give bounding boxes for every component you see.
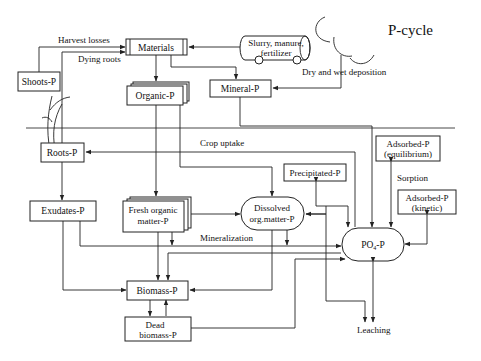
deposition-sketch-icon xyxy=(316,17,374,64)
node-dead-biomass: Dead biomass-P xyxy=(125,317,191,341)
flow-label-dry-wet-deposition: Dry and wet deposition xyxy=(302,67,387,77)
node-mineral-label: Mineral-P xyxy=(221,84,260,94)
node-adsorbed-eq-label-2: (equilibrium) xyxy=(384,149,432,159)
flow-label-mineralization: Mineralization xyxy=(200,233,253,243)
node-mineral: Mineral-P xyxy=(210,80,271,97)
node-adsorbed-equilibrium: Adsorbed-P (equilibrium) xyxy=(376,136,440,161)
node-adsorbed-kin-label-1: Adsorbed-P xyxy=(406,193,449,203)
node-roots-label: Roots-P xyxy=(47,148,78,158)
node-organic-label: Organic-P xyxy=(136,91,175,101)
diagram-title: P-cycle xyxy=(388,22,433,38)
node-precipitated: Precipitated-P xyxy=(284,164,346,181)
node-fresh-label-2: matter-P xyxy=(138,216,169,226)
node-slurry-label-2: fertilizer xyxy=(261,48,292,58)
node-exudates-label: Exudates-P xyxy=(41,206,84,216)
node-dead-label-2: biomass-P xyxy=(139,330,177,340)
flow-label-harvest-losses: Harvest losses xyxy=(58,35,110,45)
node-roots: Roots-P xyxy=(41,143,84,162)
node-exudates: Exudates-P xyxy=(30,201,96,221)
node-materials-label: Materials xyxy=(138,43,174,53)
node-fresh-organic-matter: Fresh organic matter-P xyxy=(123,197,191,232)
flow-label-sorption: Sorption xyxy=(397,173,429,183)
node-dead-label-1: Dead xyxy=(146,320,165,330)
node-fresh-label-1: Fresh organic xyxy=(128,205,177,215)
flow-label-dying-roots: Dying roots xyxy=(78,54,121,64)
node-shoots-label: Shoots-P xyxy=(22,77,56,87)
node-slurry-tank: Slurry, manure, fertilizer xyxy=(240,36,310,64)
node-po4-label: PO4-P xyxy=(361,240,385,251)
node-po4: PO4-P xyxy=(342,228,404,261)
node-biomass: Biomass-P xyxy=(127,281,188,300)
node-adsorbed-kin-label-2: (kinetic) xyxy=(412,203,443,213)
node-adsorbed-kinetic: Adsorbed-P (kinetic) xyxy=(398,190,456,214)
flow-label-crop-uptake: Crop uptake xyxy=(200,138,244,148)
p-cycle-diagram: P-cycle Materials Slurry, manure, fertil… xyxy=(0,0,481,361)
node-organic: Organic-P xyxy=(127,82,189,105)
plant-sketch-icon xyxy=(42,96,70,150)
node-biomass-label: Biomass-P xyxy=(136,286,177,296)
node-dissolved-label-1: Dissolved xyxy=(254,203,291,213)
node-slurry-label-1: Slurry, manure, xyxy=(248,38,304,48)
node-shoots: Shoots-P xyxy=(18,72,60,91)
node-adsorbed-eq-label-1: Adsorbed-P xyxy=(387,139,430,149)
node-dissolved-organic-matter: Dissolved org.matter-P xyxy=(241,197,304,230)
node-dissolved-label-2: org.matter-P xyxy=(250,214,295,224)
flow-label-leaching: Leaching xyxy=(357,325,391,335)
node-precipitated-label: Precipitated-P xyxy=(290,168,341,178)
node-materials: Materials xyxy=(126,39,187,55)
